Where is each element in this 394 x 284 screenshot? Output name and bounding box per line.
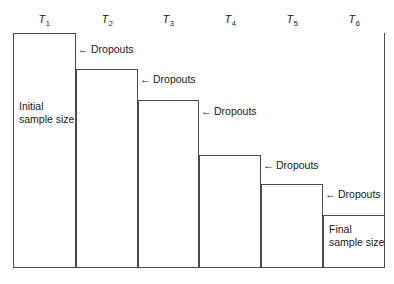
dropout-callout-2: ←Dropouts [140,73,196,85]
dropout-label: Dropouts [276,159,319,171]
period-label-t6: T6 [349,13,360,25]
dropout-label: Dropouts [214,105,257,117]
dropout-label: Dropouts [91,43,134,55]
bar-t5 [261,184,323,268]
initial-sample-size-label: Initial sample size [19,100,77,126]
period-label-t1: T1 [39,13,50,25]
period-label-t3: T3 [163,13,174,25]
period-label-t5: T5 [287,13,298,25]
final-sample-size-label: Final sample size [329,223,389,249]
bar-t4 [199,155,261,268]
bar-t1 [13,33,76,268]
dropout-attrition-diagram: T1 T2 T3 T4 T5 T6 Initial sample size Fi… [0,0,394,284]
dropout-label: Dropouts [338,188,381,200]
dropout-callout-5: ←Dropouts [325,188,381,200]
bar-t3 [138,100,199,268]
dropout-callout-4: ←Dropouts [263,159,319,171]
left-arrow-icon: ← [263,159,274,171]
period-label-t2: T2 [102,13,113,25]
left-arrow-icon: ← [140,73,151,85]
left-arrow-icon: ← [78,43,89,55]
dropout-label: Dropouts [153,73,196,85]
left-arrow-icon: ← [325,188,336,200]
period-label-t4: T4 [225,13,236,25]
dropout-callout-3: ←Dropouts [201,105,257,117]
baseline [13,267,385,268]
dropout-callout-1: ←Dropouts [78,43,134,55]
left-arrow-icon: ← [201,105,212,117]
bar-t2 [76,69,138,268]
